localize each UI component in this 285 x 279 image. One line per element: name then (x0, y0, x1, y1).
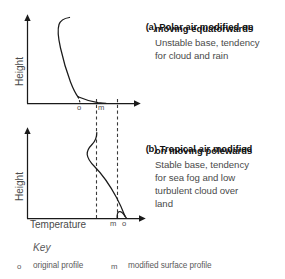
panel-a-body-line2: for cloud and rain (155, 50, 228, 61)
key-label-original-profile: original profile (33, 261, 83, 271)
panel-b-axes (27, 133, 140, 219)
panel-b-body-line1: Stable base, tendency (155, 159, 249, 170)
panel-a-body-line1: Unstable base, tendency (155, 37, 259, 48)
panel-a-curves (58, 18, 106, 104)
panel-b-marker-m: m (110, 220, 116, 229)
panel-a-y-axis-label: Height (14, 57, 26, 86)
panel-b-y-axis-label: Height (14, 172, 26, 201)
panel-a-original-profile-line (58, 18, 78, 97)
panel-a-marker-m: m (98, 104, 104, 113)
panel-b-body-line3: turbulent cloud over (155, 185, 238, 196)
panel-b-body-line2: for sea fog and low (155, 172, 235, 183)
panel-a-title-line2: moving equatorwards (155, 23, 253, 34)
panel-b-curves (87, 133, 126, 219)
panel-b-original-profile-line (87, 133, 125, 216)
panel-b-title-line2: on moving polewards (155, 145, 252, 156)
panel-a-axes (27, 20, 135, 104)
key-symbol-o: o (17, 262, 21, 271)
reference-lines (97, 99, 118, 219)
panel-b-x-axis-label: Temperature (30, 219, 86, 231)
panel-a-marker-o: o (77, 104, 81, 113)
panel-b-marker-o: o (122, 220, 126, 229)
key-symbol-m: m (111, 262, 118, 271)
panel-b-body-line4: land (155, 198, 173, 209)
key-title: Key (33, 242, 51, 254)
air-mass-modification-figure: Height o m (a) Polar air modified on mov… (0, 0, 285, 279)
key-label-modified-surface-profile: modified surface profile (128, 261, 211, 271)
